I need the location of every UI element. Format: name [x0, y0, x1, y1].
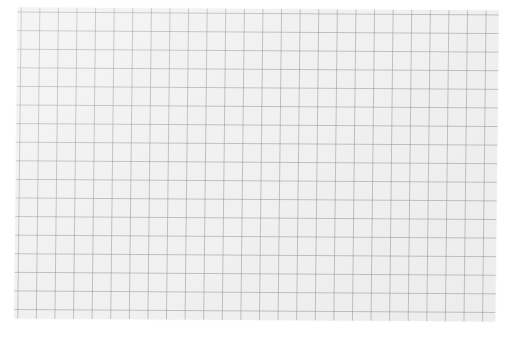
photo-scene: grid paper sheet [0, 0, 511, 337]
grid-paper-sheet [14, 8, 499, 322]
